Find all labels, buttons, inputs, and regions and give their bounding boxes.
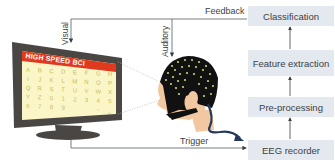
speller-cell: 2 xyxy=(71,96,79,102)
speller-cell: 3 xyxy=(83,97,91,103)
eeg-head-icon xyxy=(157,56,244,141)
speller-cell: _ xyxy=(106,107,114,113)
speller-cell: V xyxy=(83,88,91,94)
speller-cell: H xyxy=(106,71,114,77)
speller-cell: B xyxy=(36,67,44,73)
speller-cell: 4 xyxy=(94,97,102,103)
speller-cell: I xyxy=(24,76,32,82)
speller-cell: Z xyxy=(36,94,44,100)
speller-cell: F xyxy=(83,70,91,76)
visual-label: Visual xyxy=(60,22,70,45)
speller-cell: Q xyxy=(24,85,32,91)
speller-cell: O xyxy=(94,79,102,85)
speller-cell: P xyxy=(106,80,114,86)
pre-processing-box: Pre-processing xyxy=(248,97,334,117)
auditory-label: Auditory xyxy=(160,26,170,57)
speller-cell: K xyxy=(47,77,55,83)
speller-cell: 6 xyxy=(24,103,32,109)
speller-cell xyxy=(71,105,79,111)
speller-cell: E xyxy=(71,69,79,75)
speller-cell: - xyxy=(94,106,102,112)
speller-cell: C xyxy=(47,68,55,74)
speller-cell: N xyxy=(83,79,91,85)
speller-cell: 5 xyxy=(106,98,114,104)
speller-cell: J xyxy=(36,76,44,82)
speller-cell: M xyxy=(71,78,79,84)
feedback-connector xyxy=(71,19,247,56)
speller-cell: R xyxy=(36,85,44,91)
feedback-label: Feedback xyxy=(205,6,245,16)
speller-cell: 8 xyxy=(47,104,55,110)
speller-cell: W xyxy=(94,88,102,94)
speller-grid: A B C D E F G H I J K L M N O P Q R S T … xyxy=(24,67,114,118)
trigger-label: Trigger xyxy=(180,136,208,146)
speller-cell xyxy=(83,106,91,112)
speller-cell: 1 xyxy=(59,95,67,101)
speller-cell: S xyxy=(47,86,55,92)
speller-cell: T xyxy=(59,86,67,92)
speller-cell: G xyxy=(94,70,102,76)
eeg-recorder-box: EEG recorder xyxy=(248,140,334,160)
speller-cell: A xyxy=(24,67,32,73)
speller-cell: 7 xyxy=(36,103,44,109)
speller-cell: Y xyxy=(24,94,32,100)
speller-cell: D xyxy=(59,68,67,74)
speller-cell: 9 xyxy=(59,104,67,110)
speller-cell: 0 xyxy=(47,95,55,101)
classification-box: Classification xyxy=(248,6,334,26)
speller-cell: X xyxy=(106,89,114,95)
speller-cell: U xyxy=(71,87,79,93)
speller-cell: L xyxy=(59,77,67,83)
feature-extraction-box: Feature extraction xyxy=(248,50,334,76)
speller-row: 6 7 8 9 - _ xyxy=(24,103,114,114)
